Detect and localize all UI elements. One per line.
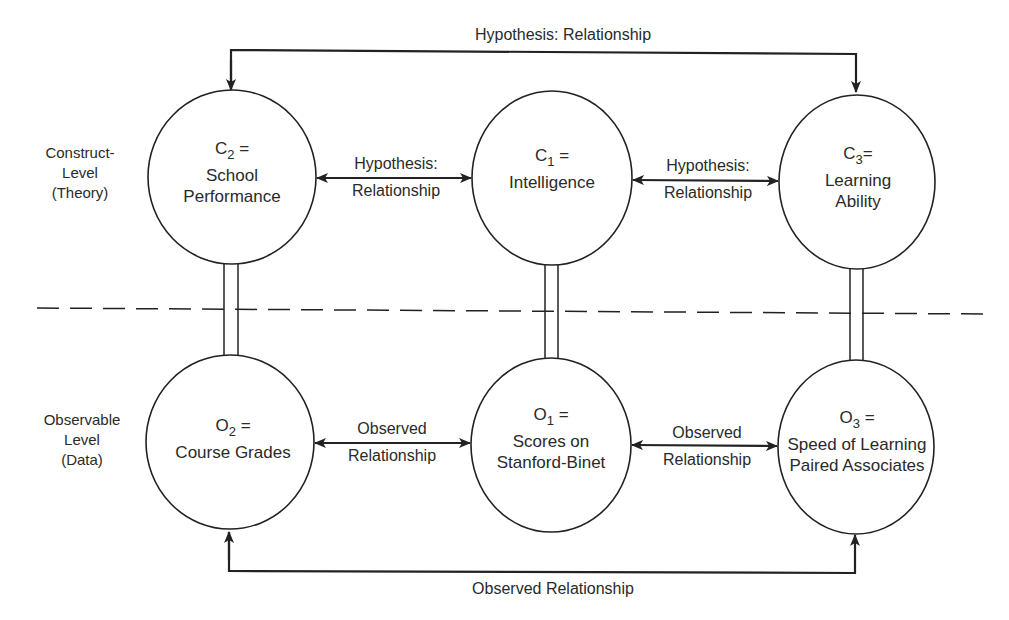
node-c1-symbol: C1 = <box>509 145 595 172</box>
construct-level-line: Level <box>45 163 114 183</box>
observable-level-label: Observable Level (Data) <box>44 410 121 470</box>
node-o2-label: O2 = Course Grades <box>175 415 290 463</box>
edge-o1-o3-label: Observed Relationship <box>663 422 751 470</box>
construct-level-label: Construct- Level (Theory) <box>45 143 114 203</box>
edge-label-line: Relationship <box>664 182 752 203</box>
edge-label-line: Observed <box>663 422 751 443</box>
node-c3-label: C3= Learning Ability <box>825 143 891 212</box>
node-o3-symbol: O3 = <box>788 407 927 434</box>
top-relationship-arrow <box>231 50 856 92</box>
edge-label-line: Relationship <box>663 449 751 470</box>
edge-c1-c3-label: Hypothesis: Relationship <box>664 155 752 203</box>
node-o1-line: Stanford-Binet <box>497 452 606 473</box>
edge-c2-c1-label: Hypothesis: Relationship <box>352 153 440 201</box>
construct-level-line: (Theory) <box>45 183 114 203</box>
node-c2-symbol: C2 = <box>183 138 280 165</box>
node-c2-line: Performance <box>183 186 280 207</box>
node-o3-label: O3 = Speed of Learning Paired Associates <box>788 407 927 476</box>
edge-o2-o1-label: Observed Relationship <box>348 418 436 466</box>
edge-label-line: Hypothesis: <box>352 153 440 174</box>
node-c3-line: Ability <box>825 191 891 212</box>
level-separator-dashed-line <box>37 308 985 314</box>
node-o2-line: Course Grades <box>175 442 290 463</box>
top-edge-label: Hypothesis: Relationship <box>475 24 651 45</box>
construct-level-line: Construct- <box>45 143 114 163</box>
observable-level-line: Observable <box>44 410 121 430</box>
bottom-edge-label: Observed Relationship <box>472 578 634 599</box>
node-o1-label: O1 = Scores on Stanford-Binet <box>497 404 606 473</box>
observable-level-line: (Data) <box>44 450 121 470</box>
edge-label-line: Relationship <box>348 445 436 466</box>
node-o1-line: Scores on <box>497 431 606 452</box>
observable-level-line: Level <box>44 430 121 450</box>
edge-label-line: Observed <box>348 418 436 439</box>
edge-label-line: Hypothesis: <box>664 155 752 176</box>
node-c3-line: Learning <box>825 170 891 191</box>
node-o3-line: Speed of Learning <box>788 434 927 455</box>
diagram-canvas <box>0 0 1009 620</box>
node-c2-line: School <box>183 165 280 186</box>
node-c1-label: C1 = Intelligence <box>509 145 595 193</box>
node-c2-label: C2 = School Performance <box>183 138 280 207</box>
node-o3-line: Paired Associates <box>788 455 927 476</box>
node-c3-symbol: C3= <box>825 143 891 170</box>
connector-c3-o3 <box>850 268 863 361</box>
node-o2-symbol: O2 = <box>175 415 290 442</box>
node-o1-symbol: O1 = <box>497 404 606 431</box>
edge-label-line: Relationship <box>352 180 440 201</box>
node-c1-line: Intelligence <box>509 172 595 193</box>
